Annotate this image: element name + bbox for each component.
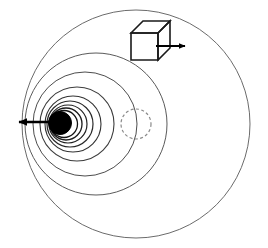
figure-root [0,0,268,248]
diagram-canvas [0,0,268,248]
